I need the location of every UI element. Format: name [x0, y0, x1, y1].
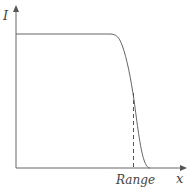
y-axis: [13, 5, 19, 168]
intensity-curve: [16, 34, 150, 168]
range-label: Range: [115, 173, 155, 187]
y-axis-arrow-icon: [13, 5, 19, 12]
x-axis: [16, 165, 187, 171]
y-axis-label: I: [2, 8, 9, 23]
range-diagram: I x Range: [0, 0, 194, 192]
x-axis-label: x: [176, 171, 184, 186]
